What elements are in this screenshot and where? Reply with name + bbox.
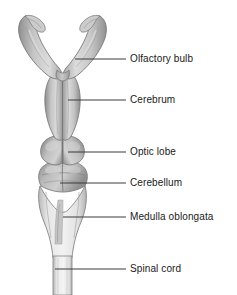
optic-lobe-shape [41,135,85,165]
label-optic-lobe: Optic lobe [130,146,176,157]
label-spinal-cord: Spinal cord [130,263,181,274]
label-olfactory-bulb: Olfactory bulb [130,53,193,64]
cerebrum-shape [45,73,80,140]
cerebellum-shape [39,160,88,192]
olfactory-bulb-shape [19,15,107,81]
brain-illustration [0,0,237,295]
label-cerebrum: Cerebrum [130,94,175,105]
spinal-cord-shape [53,256,72,295]
medulla-oblongata-shape [39,186,87,258]
label-medulla-oblongata: Medulla oblongata [130,211,213,222]
label-cerebellum: Cerebellum [130,177,182,188]
brain-diagram-figure: Olfactory bulb Cerebrum Optic lobe Cereb… [0,0,237,295]
